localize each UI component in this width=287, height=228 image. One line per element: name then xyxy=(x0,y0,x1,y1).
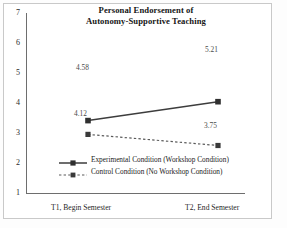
legend-label-control: Control Condition (No Workshop Condition… xyxy=(88,167,222,176)
legend-label-experimental: Experimental Condition (Workshop Conditi… xyxy=(88,155,229,164)
plot-area xyxy=(0,0,287,228)
series-line-control xyxy=(88,134,218,145)
series-marker-experimental-t1 xyxy=(85,118,91,124)
value-label-control-t2: 3.75 xyxy=(204,122,217,130)
legend-key-solid-line-icon xyxy=(58,154,88,164)
series-line-experimental xyxy=(88,102,218,121)
series-marker-control-t1 xyxy=(85,132,90,137)
legend-key-dashed-line-icon xyxy=(58,166,88,176)
chart-legend: Experimental Condition (Workshop Conditi… xyxy=(58,153,229,177)
legend-item-control: Control Condition (No Workshop Condition… xyxy=(58,165,229,177)
value-label-experimental-t1: 4.58 xyxy=(76,64,89,72)
series-marker-experimental-t2 xyxy=(215,99,221,105)
series-marker-control-t2 xyxy=(215,143,220,148)
value-label-control-t1: 4.12 xyxy=(74,110,87,118)
legend-item-experimental: Experimental Condition (Workshop Conditi… xyxy=(58,153,229,165)
value-label-experimental-t2: 5.21 xyxy=(205,46,218,54)
x-tick-label-t2: T2, End Semester xyxy=(185,203,239,212)
chart-figure: Personal Endorsement of Autonomy-Support… xyxy=(0,0,287,228)
x-tick-label-t1: T1, Begin Semester xyxy=(51,203,111,212)
